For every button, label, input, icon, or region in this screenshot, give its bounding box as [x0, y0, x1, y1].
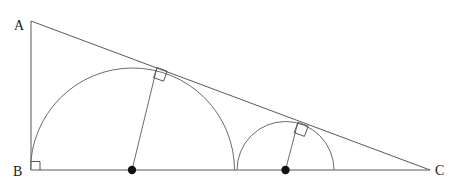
radius-line-small	[286, 122, 299, 170]
center-dot-large	[128, 166, 136, 174]
label-vertex-a: A	[14, 18, 25, 33]
right-angle-mark-b	[31, 162, 40, 171]
geometry-diagram-canvas: A B C	[0, 0, 459, 183]
semicircle-large	[31, 68, 235, 170]
label-vertex-c: C	[435, 163, 444, 178]
geometry-figure: A B C	[0, 0, 459, 183]
segment-ac	[31, 21, 430, 170]
label-vertex-b: B	[13, 164, 22, 179]
radius-line-large	[132, 67, 157, 170]
center-dot-small	[281, 166, 289, 174]
